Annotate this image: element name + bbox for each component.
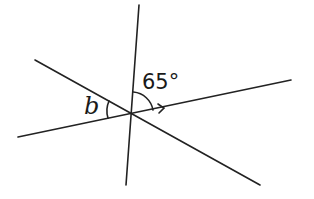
angle-label-65: 65° [142, 70, 179, 94]
angle-label-b: b [84, 92, 99, 120]
diagram-canvas [0, 0, 314, 199]
angle-arc-b [107, 101, 109, 118]
arrow-marker-icon [158, 104, 164, 113]
angle-arc-65 [134, 92, 154, 110]
vertical-line [126, 5, 139, 185]
